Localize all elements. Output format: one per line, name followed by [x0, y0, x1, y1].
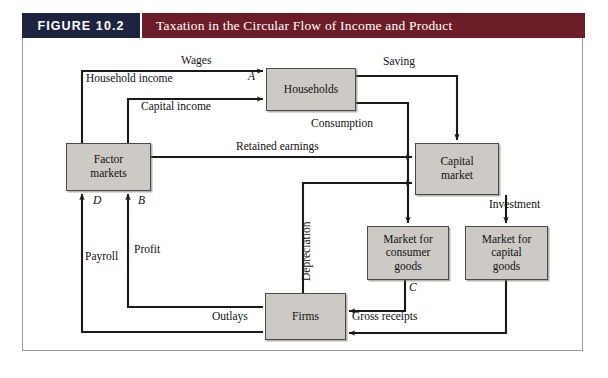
edge-label-depreciation: Depreciation	[300, 222, 312, 281]
edge-label-retained-earnings: Retained earnings	[236, 140, 319, 152]
edge-label-capital-income: Capital income	[141, 100, 211, 112]
edge-label-wages-text: Wages	[181, 54, 211, 66]
edge-label-wages: Wages	[181, 54, 211, 66]
edge-label-consumption: Consumption	[311, 117, 373, 129]
point-label-a: A	[248, 70, 255, 82]
edge-label-outlays: Outlays	[210, 310, 250, 322]
node-households-label: Households	[284, 83, 338, 97]
edge-label-investment-text: Investment	[489, 198, 540, 210]
point-label-b-text: B	[138, 194, 145, 206]
node-factor-markets-label-1: Factor	[94, 153, 123, 167]
figure-header: FIGURE 10.2 Taxation in the Circular Flo…	[22, 13, 585, 38]
node-market-capital-goods: Market for capital goods	[465, 226, 548, 280]
node-firms: Firms	[265, 293, 346, 340]
edge-label-payroll-text: Payroll	[85, 250, 118, 262]
point-label-d: D	[93, 194, 101, 206]
figure-number-label: FIGURE 10.2	[37, 19, 124, 33]
edge-label-profit: Profit	[134, 243, 160, 255]
edge-label-household-income: Household income	[86, 72, 173, 84]
edge-label-consumption-text: Consumption	[311, 117, 373, 129]
edge-label-saving: Saving	[383, 55, 415, 67]
edge-label-retained-earnings-text: Retained earnings	[236, 140, 319, 152]
edge-label-gross-receipts: Gross receipts	[352, 310, 417, 322]
node-capital-market-label-2: market	[441, 169, 473, 183]
node-firms-label: Firms	[292, 310, 319, 324]
edge-label-investment: Investment	[489, 198, 540, 210]
figure-root: FIGURE 10.2 Taxation in the Circular Flo…	[0, 0, 608, 378]
edge-label-capital-income-text: Capital income	[141, 100, 211, 112]
node-market-capital-label-2: capital	[491, 246, 522, 260]
node-capital-market: Capital market	[415, 143, 499, 195]
node-capital-market-label-1: Capital	[440, 155, 473, 169]
node-market-consumer-label-3: goods	[394, 260, 421, 274]
node-market-capital-label-3: goods	[493, 260, 520, 274]
node-households: Households	[266, 68, 356, 111]
point-label-c: C	[409, 281, 417, 293]
point-label-d-text: D	[93, 194, 101, 206]
node-market-consumer-label-2: consumer	[386, 246, 431, 260]
point-label-b: B	[138, 194, 145, 206]
node-factor-markets-label-2: markets	[90, 167, 126, 181]
node-factor-markets: Factor markets	[66, 143, 151, 191]
point-label-a-text: A	[248, 70, 255, 82]
edge-label-household-income-text: Household income	[86, 72, 173, 84]
edge-label-profit-text: Profit	[134, 243, 160, 255]
edge-label-payroll: Payroll	[85, 250, 118, 262]
figure-number-box: FIGURE 10.2	[22, 13, 140, 38]
node-market-consumer-goods: Market for consumer goods	[367, 226, 449, 280]
node-market-capital-label-1: Market for	[482, 233, 532, 247]
node-market-consumer-label-1: Market for	[383, 233, 433, 247]
figure-title-box: Taxation in the Circular Flow of Income …	[140, 13, 585, 38]
edge-label-gross-receipts-text: Gross receipts	[352, 310, 417, 322]
point-label-c-text: C	[409, 281, 417, 293]
figure-title-label: Taxation in the Circular Flow of Income …	[156, 18, 452, 34]
edge-label-saving-text: Saving	[383, 55, 415, 67]
edge-label-depreciation-text: Depreciation	[300, 222, 312, 281]
edge-label-outlays-text: Outlays	[212, 310, 248, 322]
